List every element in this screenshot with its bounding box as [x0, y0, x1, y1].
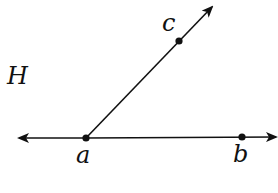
point-label-a: a [76, 141, 90, 169]
point-label-c: c [162, 9, 175, 37]
geometry-diagram: H a b c [0, 0, 278, 193]
ray-ac [86, 7, 212, 138]
point-label-b: b [233, 140, 248, 168]
point-c [175, 37, 182, 44]
line-ab [86, 137, 276, 138]
plane-label-H: H [6, 62, 29, 90]
